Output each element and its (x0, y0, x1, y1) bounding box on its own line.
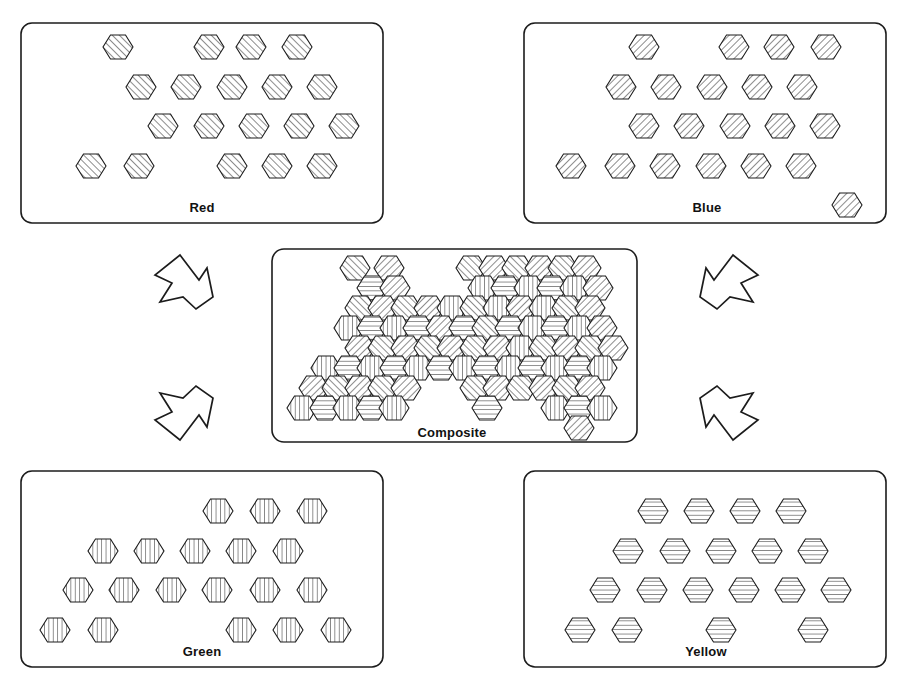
panel-label-yellow: Yellow (685, 644, 727, 659)
hex-cell (217, 154, 247, 178)
hex-cluster-yellow (565, 499, 851, 642)
hex-cell (776, 499, 806, 523)
hex-cell (217, 75, 247, 99)
hex-cell (612, 618, 642, 642)
hex-cluster-green (40, 499, 351, 642)
hex-cell (719, 35, 749, 59)
hex-cell (156, 578, 186, 602)
hex-cell (250, 499, 280, 523)
hex-cell (821, 578, 851, 602)
panel-blue[interactable]: Blue (524, 23, 886, 223)
hex-cell (284, 114, 314, 138)
panel-yellow[interactable]: Yellow (524, 471, 886, 667)
panel-label-blue: Blue (693, 200, 722, 215)
hex-cell (684, 499, 714, 523)
hex-cell (729, 578, 759, 602)
panel-red[interactable]: Red (21, 23, 383, 223)
hex-cell (683, 578, 713, 602)
hex-cell (637, 578, 667, 602)
hex-cell (148, 114, 178, 138)
hex-cell (764, 35, 794, 59)
hex-cell (613, 539, 643, 563)
hex-cell (650, 154, 680, 178)
composite-panel-group: Composite (272, 249, 637, 442)
arrow-green-to-composite (155, 386, 213, 440)
panel-green[interactable]: Green (21, 471, 383, 667)
hex-cell (171, 75, 201, 99)
hex-cell (786, 154, 816, 178)
panel-label-green: Green (183, 644, 222, 659)
hex-cell (765, 114, 795, 138)
hex-cell (124, 154, 154, 178)
hex-cell (742, 75, 772, 99)
hex-cell (629, 35, 659, 59)
hex-cell (126, 75, 156, 99)
hex-cell (88, 618, 118, 642)
hex-cell (832, 193, 862, 217)
hex-cell (202, 578, 232, 602)
arrow-yellow-to-composite (700, 386, 758, 440)
composite-separation-diagram: RedBlueGreenYellow Composite (0, 0, 911, 687)
hex-cell (565, 618, 595, 642)
hex-cell (194, 114, 224, 138)
hex-cell (226, 618, 256, 642)
hex-cluster-red (76, 35, 359, 178)
hex-cell (706, 539, 736, 563)
diagram-canvas: RedBlueGreenYellow Composite (0, 0, 911, 687)
hex-cell (730, 499, 760, 523)
hex-cell (720, 114, 750, 138)
hex-cell (651, 75, 681, 99)
hex-cell (798, 618, 828, 642)
hex-cell (590, 578, 620, 602)
hex-cell (273, 539, 303, 563)
hex-cell (798, 539, 828, 563)
hex-cell (697, 75, 727, 99)
hex-cell (262, 75, 292, 99)
hex-cell (76, 154, 106, 178)
hex-cell (239, 114, 269, 138)
hex-cell (696, 154, 726, 178)
hex-cell (134, 539, 164, 563)
hex-cell (109, 578, 139, 602)
hex-cell (606, 75, 636, 99)
hex-cell (752, 539, 782, 563)
hex-cell (180, 539, 210, 563)
panel-label-red: Red (189, 200, 214, 215)
hex-cell (40, 618, 70, 642)
hex-cell (775, 578, 805, 602)
hex-cell (329, 114, 359, 138)
hex-cell (556, 154, 586, 178)
arrow-blue-to-composite (700, 255, 758, 309)
hex-cell (674, 114, 704, 138)
hex-cell (203, 499, 233, 523)
hex-cell (88, 539, 118, 563)
hex-cell (307, 75, 337, 99)
hex-cell (103, 35, 133, 59)
hex-cell (638, 499, 668, 523)
hex-cell (297, 499, 327, 523)
hex-cell (250, 578, 280, 602)
hex-cell (741, 154, 771, 178)
hex-cell (706, 618, 736, 642)
hex-cell (63, 578, 93, 602)
hex-cell (236, 35, 266, 59)
panel-composite[interactable]: Composite (272, 249, 637, 442)
hex-cell (811, 35, 841, 59)
hex-cell (321, 618, 351, 642)
hex-cell (605, 154, 635, 178)
arrow-red-to-composite (155, 255, 213, 309)
hex-cell (660, 539, 690, 563)
hex-cluster-blue (556, 35, 862, 217)
panel-label-composite: Composite (418, 425, 487, 440)
hex-cell (307, 154, 337, 178)
hex-cell (194, 35, 224, 59)
hex-cell (787, 75, 817, 99)
hex-cell (262, 154, 292, 178)
hex-cell (273, 618, 303, 642)
hex-cell (297, 578, 327, 602)
hex-cell (226, 539, 256, 563)
hex-cell (282, 35, 312, 59)
hex-cell (629, 114, 659, 138)
hex-cell (810, 114, 840, 138)
